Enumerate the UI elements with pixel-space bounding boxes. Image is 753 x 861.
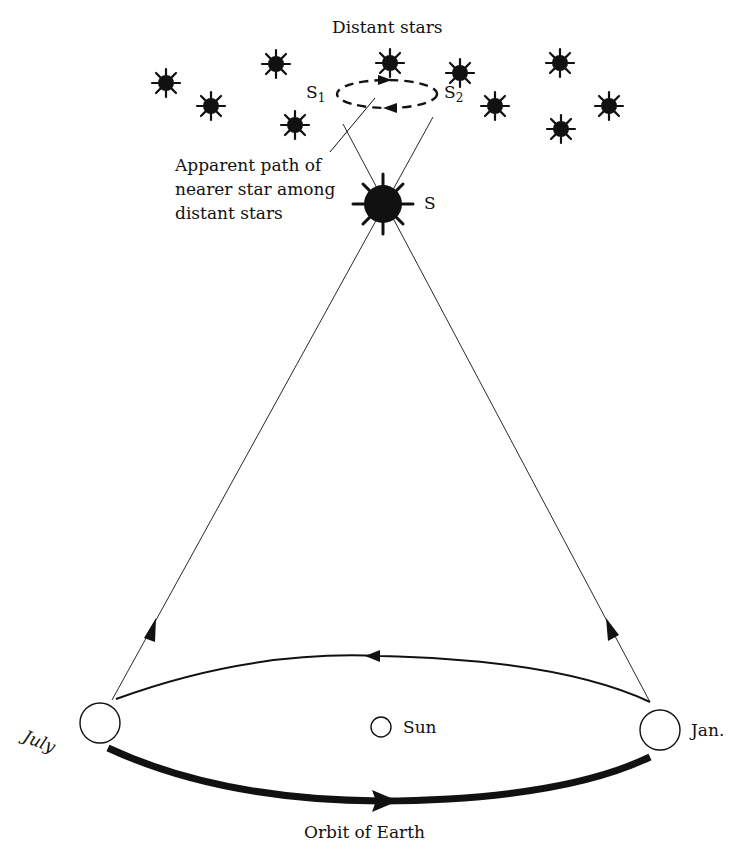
earth-july-icon — [80, 703, 120, 743]
jan-label: Jan. — [691, 720, 724, 740]
s1-label: S1 — [306, 82, 325, 106]
apparent-path-label: Apparent path of nearer star among dista… — [175, 153, 345, 225]
sightline-arrow-july-icon — [144, 618, 156, 642]
path-arrow-left-icon — [383, 103, 397, 113]
distant-star-icon — [376, 49, 404, 77]
s2-subscript: 2 — [456, 91, 464, 105]
distant-star-icon — [595, 92, 623, 120]
orbit-label: Orbit of Earth — [304, 822, 425, 842]
sun-label: Sun — [403, 717, 437, 737]
distant-star-icon — [481, 92, 509, 120]
apparent-path-ellipse — [337, 80, 437, 108]
orbit-top-arrow-icon — [365, 650, 380, 662]
distant-star-icon — [547, 115, 575, 143]
s2-label: S2 — [444, 82, 463, 106]
distant-star-icon — [546, 49, 574, 77]
s1-letter: S — [306, 82, 318, 102]
sightline-arrow-jan-icon — [606, 618, 619, 641]
sun-icon — [371, 717, 391, 737]
s2-letter: S — [444, 82, 456, 102]
distant-stars — [152, 49, 623, 143]
near-star-icon — [353, 174, 413, 234]
distant-stars-title: Distant stars — [332, 17, 442, 37]
parallax-diagram — [0, 0, 753, 861]
distant-star-icon — [197, 92, 225, 120]
s1-subscript: 1 — [318, 91, 326, 105]
near-star-label: S — [424, 193, 436, 213]
distant-star-icon — [152, 69, 180, 97]
distant-star-icon — [281, 111, 309, 139]
pointer-line — [330, 98, 375, 152]
distant-star-icon — [262, 50, 290, 78]
orbit-top-arc — [116, 655, 650, 702]
earth-jan-icon — [640, 710, 680, 750]
